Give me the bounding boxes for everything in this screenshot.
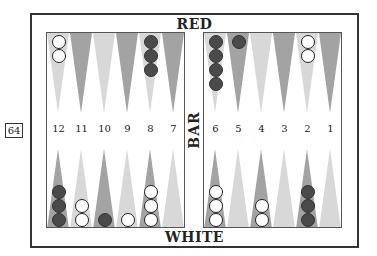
white-checker[interactable] [52, 49, 66, 63]
red-checker[interactable] [144, 49, 158, 63]
white-checker[interactable] [209, 185, 223, 199]
red-checker[interactable] [144, 35, 158, 49]
point-11[interactable]: 11 [70, 33, 93, 228]
red-checker[interactable] [301, 213, 315, 227]
red-checker[interactable] [301, 199, 315, 213]
triangle-bottom[interactable] [162, 149, 184, 228]
point-number: 2 [296, 123, 319, 134]
triangle-top[interactable] [319, 33, 341, 113]
point-number: 3 [273, 123, 296, 134]
position-id-box: 64 [5, 123, 23, 138]
bar[interactable]: BAR [185, 32, 203, 228]
red-checker[interactable] [52, 213, 66, 227]
red-player-label: RED [32, 16, 357, 32]
point-7[interactable]: 7 [162, 33, 185, 228]
white-checker[interactable] [255, 213, 269, 227]
white-checker[interactable] [301, 35, 315, 49]
point-3[interactable]: 3 [273, 33, 296, 228]
point-9[interactable]: 9 [116, 33, 139, 228]
triangle-top[interactable] [250, 33, 272, 113]
triangle-top[interactable] [273, 33, 295, 113]
white-checker[interactable] [144, 199, 158, 213]
triangle-top[interactable] [162, 33, 184, 113]
point-number: 10 [93, 123, 116, 134]
white-checker[interactable] [209, 199, 223, 213]
point-6[interactable]: 6 [204, 33, 227, 228]
triangle-top[interactable] [93, 33, 115, 113]
triangle-bottom[interactable] [319, 149, 341, 228]
right-board-half: 654321 [203, 32, 342, 228]
red-checker[interactable] [301, 185, 315, 199]
point-5[interactable]: 5 [227, 33, 250, 228]
point-number: 7 [162, 123, 185, 134]
red-checker[interactable] [232, 35, 246, 49]
point-number: 1 [319, 123, 342, 134]
point-10[interactable]: 10 [93, 33, 116, 228]
point-number: 11 [70, 123, 93, 134]
red-checker[interactable] [98, 213, 112, 227]
point-4[interactable]: 4 [250, 33, 273, 228]
point-number: 8 [139, 123, 162, 134]
point-12[interactable]: 12 [47, 33, 70, 228]
point-number: 5 [227, 123, 250, 134]
point-number: 9 [116, 123, 139, 134]
white-checker[interactable] [75, 213, 89, 227]
red-checker[interactable] [209, 77, 223, 91]
red-checker[interactable] [209, 49, 223, 63]
white-checker[interactable] [52, 35, 66, 49]
red-checker[interactable] [52, 199, 66, 213]
point-2[interactable]: 2 [296, 33, 319, 228]
left-board-half: 121110987 [46, 32, 185, 228]
white-checker[interactable] [121, 213, 135, 227]
white-checker[interactable] [255, 199, 269, 213]
red-checker[interactable] [209, 63, 223, 77]
triangle-top[interactable] [116, 33, 138, 113]
point-number: 6 [204, 123, 227, 134]
white-checker[interactable] [144, 213, 158, 227]
white-checker[interactable] [209, 213, 223, 227]
point-number: 12 [47, 123, 70, 134]
point-8[interactable]: 8 [139, 33, 162, 228]
white-checker[interactable] [75, 199, 89, 213]
red-checker[interactable] [52, 185, 66, 199]
point-1[interactable]: 1 [319, 33, 342, 228]
red-checker[interactable] [209, 35, 223, 49]
triangle-bottom[interactable] [227, 149, 249, 228]
point-number: 4 [250, 123, 273, 134]
triangle-bottom[interactable] [273, 149, 295, 228]
triangle-top[interactable] [70, 33, 92, 113]
bar-label: BAR [186, 111, 202, 148]
white-player-label: WHITE [32, 229, 357, 245]
white-checker[interactable] [301, 49, 315, 63]
white-checker[interactable] [144, 185, 158, 199]
red-checker[interactable] [144, 63, 158, 77]
